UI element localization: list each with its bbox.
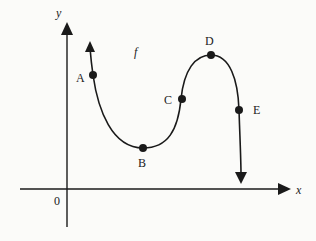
point-c: [178, 95, 186, 103]
x-axis-arrow-icon: [278, 183, 291, 195]
function-graph: [0, 0, 316, 241]
point-a: [89, 71, 97, 79]
origin-label: 0: [54, 195, 60, 207]
point-e-label: E: [253, 104, 260, 116]
point-d-label: D: [205, 35, 214, 47]
point-d: [207, 51, 215, 59]
point-b: [139, 144, 147, 152]
y-axis-arrow-icon: [61, 22, 73, 35]
point-c-label: C: [164, 94, 172, 106]
y-axis-label: y: [56, 7, 61, 19]
curve-end-arrow-icon: [235, 172, 247, 184]
function-label: f: [134, 46, 137, 58]
point-a-label: A: [76, 72, 85, 84]
function-curve: [90, 48, 241, 175]
curve-start-arrow-icon: [85, 41, 95, 52]
point-b-label: B: [138, 157, 146, 169]
point-e: [235, 106, 243, 114]
x-axis-label: x: [296, 184, 301, 196]
